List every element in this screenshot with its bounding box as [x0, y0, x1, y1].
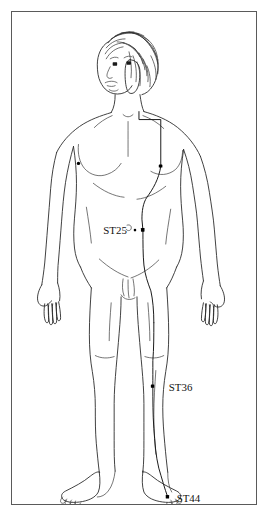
hip-right	[167, 267, 177, 288]
label-st25: ST25	[103, 224, 127, 236]
acupoint-st17-marker[interactable]	[159, 164, 163, 167]
foot-right-ankle-line	[168, 472, 172, 492]
left-eyebrow	[110, 57, 118, 59]
shoulder-right	[144, 112, 201, 157]
right-eyebrow	[124, 56, 132, 58]
arm-right-outer	[200, 156, 220, 285]
meridian-leg-to-foot	[153, 386, 168, 497]
left-eye-marker	[113, 62, 117, 65]
chin-crease	[109, 90, 118, 91]
hair-strokes	[105, 32, 158, 87]
costal-margin-left	[93, 183, 124, 197]
stomach-meridian-path	[139, 112, 168, 497]
mouth-line	[105, 81, 117, 82]
label-st25-leader-dot	[134, 229, 137, 232]
meridian-upper-segment	[139, 112, 161, 167]
hip-left	[80, 267, 91, 288]
inguinal-crease-left	[99, 259, 128, 277]
foot-left-outline	[62, 472, 100, 503]
knee-right-crease	[145, 356, 164, 358]
leg-left-inner	[114, 297, 121, 471]
shoulder-left	[57, 113, 112, 153]
leg-left-outer	[89, 288, 99, 472]
meridian-chest-to-abdomen	[142, 166, 161, 230]
costal-margin-right	[137, 186, 166, 199]
arm-left-outer	[42, 152, 57, 284]
hands-group	[38, 281, 225, 326]
leg-right-inner	[137, 297, 144, 471]
leg-right-outer	[163, 288, 169, 472]
neck-left	[111, 95, 115, 113]
acupoint-st36-marker[interactable]	[151, 384, 154, 387]
groin-strokes	[121, 279, 135, 300]
pectoral-left-curve	[78, 144, 121, 175]
head-group	[97, 32, 158, 95]
acupoint-st25-marker[interactable]	[141, 228, 145, 232]
abdomen-left-line	[86, 207, 91, 243]
thigh-right-inner-line	[148, 303, 150, 341]
label-st44: ST44	[177, 492, 201, 504]
knee-left-crease	[95, 356, 114, 358]
meridian-thigh-to-knee	[153, 323, 154, 387]
anatomical-figure-canvas: ST25 ST36 ST44	[12, 12, 256, 504]
arm-left-inner	[58, 146, 74, 282]
abdomen-right-line	[166, 209, 171, 244]
legs-group	[89, 288, 168, 472]
feet-group	[61, 471, 182, 504]
acupoint-st44-marker[interactable]	[166, 495, 169, 498]
pectoral-right-curve	[151, 150, 183, 174]
sternal-notch	[123, 115, 133, 117]
right-eye-marker	[127, 61, 131, 64]
neck-right	[140, 95, 144, 112]
hand-right-outline	[210, 286, 224, 307]
diagram-frame: ST25 ST36 ST44	[11, 11, 257, 505]
arm-right-inner	[184, 149, 204, 280]
hand-left-outline	[38, 285, 52, 306]
nose-outline	[107, 67, 112, 79]
thigh-left-inner-line	[109, 303, 111, 341]
left-nipple-marker	[77, 162, 80, 165]
lower-lip-line	[107, 86, 115, 87]
torso-group	[42, 95, 221, 300]
label-st36: ST36	[169, 381, 193, 393]
hand-right-edge	[201, 281, 203, 299]
foot-left-toes	[61, 497, 81, 504]
hand-left-edge	[58, 283, 60, 301]
